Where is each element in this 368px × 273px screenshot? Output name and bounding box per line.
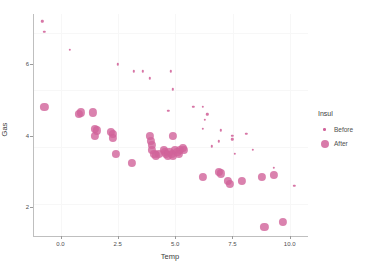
y-tick-label: 6 <box>20 61 29 67</box>
data-point <box>293 185 295 187</box>
data-point <box>167 109 169 111</box>
data-point <box>149 77 151 79</box>
legend-label-after: After <box>334 140 348 147</box>
legend-title: Insul <box>318 110 366 117</box>
legend-item-after[interactable]: After <box>318 137 366 150</box>
x-tick-label: 2.5 <box>114 241 122 247</box>
plot-panel <box>33 14 308 236</box>
data-point <box>260 223 268 231</box>
data-point <box>192 106 194 108</box>
x-tick-mark <box>232 236 233 239</box>
gridline-minor <box>33 33 308 34</box>
data-point <box>133 70 135 72</box>
gridline-minor <box>118 14 119 236</box>
data-point <box>237 176 245 184</box>
x-tick-mark <box>175 236 176 239</box>
legend-item-before[interactable]: Before <box>318 123 366 136</box>
data-point <box>201 127 203 129</box>
gridline-minor <box>33 204 308 205</box>
data-point <box>91 132 99 140</box>
data-point <box>180 146 188 154</box>
data-point <box>142 70 144 72</box>
x-tick-label: 0.0 <box>56 241 64 247</box>
data-point <box>270 171 278 179</box>
y-tick-mark <box>30 64 33 65</box>
data-point <box>258 173 266 181</box>
data-point <box>217 169 225 177</box>
data-point <box>252 149 254 151</box>
x-tick-label: 7.5 <box>228 241 236 247</box>
y-tick-label: 2 <box>20 204 29 210</box>
x-axis-line <box>33 236 308 237</box>
data-point <box>272 167 274 169</box>
data-point <box>40 103 48 111</box>
data-point <box>109 133 117 141</box>
x-axis-title: Temp <box>0 252 340 261</box>
x-tick-mark <box>61 236 62 239</box>
data-point <box>41 20 43 22</box>
data-point <box>279 218 287 226</box>
y-tick-label: 4 <box>20 133 29 139</box>
y-tick-mark <box>30 207 33 208</box>
data-point <box>206 113 208 115</box>
data-point <box>68 49 70 51</box>
legend-label-before: Before <box>334 126 353 133</box>
legend-marker-before-icon <box>318 128 331 131</box>
data-point <box>127 159 135 167</box>
gridline-minor <box>33 90 308 91</box>
gridline-minor <box>290 14 291 236</box>
x-tick-label: 5.0 <box>171 241 179 247</box>
x-tick-mark <box>290 236 291 239</box>
y-tick-mark <box>30 136 33 137</box>
data-point <box>77 108 85 116</box>
data-point <box>217 140 219 142</box>
y-axis-title: Gas <box>0 123 9 137</box>
data-point <box>245 133 247 135</box>
gridline-minor <box>175 14 176 236</box>
chart-root: 0.02.55.07.510.0 246 Temp Gas Insul Befo… <box>0 0 368 273</box>
legend-marker-after-icon <box>318 140 331 148</box>
data-point <box>201 106 203 108</box>
x-tick-mark <box>118 236 119 239</box>
data-point <box>220 129 222 131</box>
data-point <box>88 108 96 116</box>
legend: Insul Before After <box>318 110 366 151</box>
x-tick-label: 10.0 <box>284 241 296 247</box>
y-axis-line <box>33 14 34 236</box>
gridline-minor <box>61 14 62 236</box>
data-point <box>169 70 171 72</box>
data-point <box>204 118 206 120</box>
data-point <box>198 173 206 181</box>
gridline-minor <box>233 14 234 236</box>
